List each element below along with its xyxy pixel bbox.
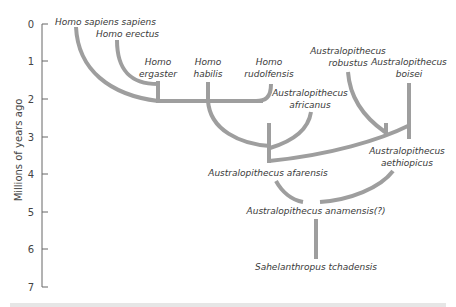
label-s-tchadensis: Sahelanthropus tchadensis xyxy=(255,262,377,272)
axis-line xyxy=(42,24,48,287)
tick-2: 2 xyxy=(28,94,34,105)
y-axis: 0 1 2 3 4 5 6 7 Millions of years ago xyxy=(13,19,48,293)
label-a-afarensis: Australopithecus afarensis xyxy=(207,168,328,178)
tick-5: 5 xyxy=(28,207,34,218)
label-homo-rudolfensis-line2: rudolfensis xyxy=(244,69,294,79)
caption-cut-off xyxy=(10,303,446,307)
label-a-robustus-line1: Australopithecus xyxy=(309,46,386,56)
label-homo-habilis-line1: Homo xyxy=(195,57,222,67)
hominin-phylogeny-diagram: 0 1 2 3 4 5 6 7 Millions of years ago xyxy=(0,0,456,307)
label-a-aethiopicus-line1: Australopithecus xyxy=(368,146,445,156)
tick-7: 7 xyxy=(28,282,34,293)
label-homo-habilis-line2: habilis xyxy=(193,69,222,79)
label-a-robustus-line2: robustus xyxy=(328,58,368,68)
label-a-anamensis: Australopithecus anamensis(?) xyxy=(246,206,386,216)
label-homo-rudolfensis-line1: Homo xyxy=(256,57,283,67)
label-homo-ergaster-line2: ergaster xyxy=(139,69,178,79)
label-homo-ergaster-line1: Homo xyxy=(145,57,172,67)
tick-4: 4 xyxy=(28,169,34,180)
label-a-africanus-line1: Australopithecus xyxy=(271,88,348,98)
label-a-boisei-line1: Australopithecus xyxy=(370,57,447,67)
label-homo-sapiens-sapiens: Homo sapiens sapiens xyxy=(55,17,156,27)
tick-6: 6 xyxy=(28,244,34,255)
label-a-boisei-line2: boisei xyxy=(396,69,423,79)
label-homo-erectus: Homo erectus xyxy=(96,29,159,39)
label-a-africanus-line2: africanus xyxy=(289,100,331,110)
tick-0: 0 xyxy=(28,19,34,30)
tick-3: 3 xyxy=(28,132,34,143)
label-a-aethiopicus-line2: aethiopicus xyxy=(381,158,433,168)
axis-title: Millions of years ago xyxy=(13,99,24,202)
tick-1: 1 xyxy=(28,56,34,67)
